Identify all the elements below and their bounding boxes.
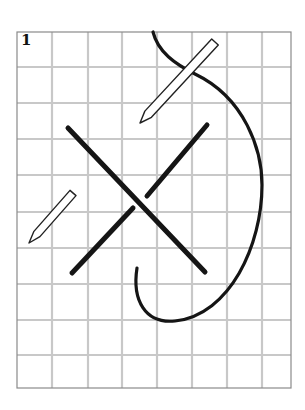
diagonal-stitch-2-lower: [72, 208, 133, 273]
diagram-canvas: [0, 0, 305, 410]
thread-loop-layer: [136, 32, 262, 321]
stitch-diagram: 1: [0, 0, 305, 410]
step-number: 1: [21, 33, 31, 48]
thread-loop: [136, 32, 262, 321]
